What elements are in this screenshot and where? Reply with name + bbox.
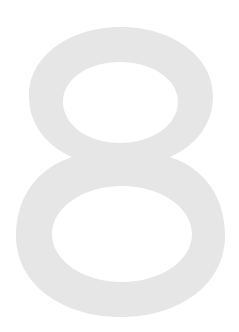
eight-icon [0,0,239,332]
numeral-eight: 8 [0,0,239,332]
